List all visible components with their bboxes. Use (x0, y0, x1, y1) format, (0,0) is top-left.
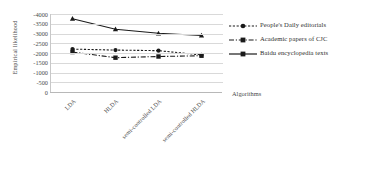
y-tick-label: -4000 (22, 11, 48, 18)
data-point-marker (113, 48, 117, 52)
y-tick-label: -1500 (22, 59, 48, 66)
y-tick-label: -1000 (22, 69, 48, 76)
legend-label: Baidu encyclopedia texts (258, 49, 328, 56)
y-tick-label: -500 (22, 79, 48, 86)
legend-label: People's Daily editorials (258, 21, 326, 28)
legend-key-triangle-icon (228, 46, 258, 58)
plot-area (50, 14, 222, 92)
legend-item[interactable]: Baidu encyclopedia texts (228, 45, 374, 59)
gridline (51, 14, 223, 15)
gridline (51, 34, 223, 35)
x-tick-label: semi-controlled HLDA (161, 98, 206, 143)
legend-item[interactable]: Academic papers of CJC (228, 31, 374, 45)
series-2 (70, 50, 203, 60)
x-tick-label: semi-controlled LDA (121, 98, 163, 140)
data-point-marker (70, 16, 75, 21)
gridline (51, 43, 223, 44)
legend-item[interactable]: People's Daily editorials (228, 17, 374, 31)
x-tick-label: HLDA (103, 98, 119, 114)
gridline (51, 53, 223, 54)
y-tick-label: -2000 (22, 50, 48, 57)
data-point-marker (199, 54, 203, 58)
x-tick-label: LDA (64, 98, 77, 111)
data-point-marker (156, 54, 160, 58)
y-tick-label: -3500 (22, 20, 48, 27)
x-axis-title: Algorithms (232, 90, 261, 97)
y-tick-label: -3000 (22, 30, 48, 37)
y-tick-label: -2500 (22, 40, 48, 47)
y-axis-tick-labels: -4000-3500-3000-2500-2000-1500-1000-5000 (22, 10, 48, 96)
y-axis-title: Empirical likelihood (11, 0, 18, 98)
legend-key-square-icon (228, 32, 258, 44)
y-tick-label: 0 (22, 89, 48, 96)
x-axis-tick-labels: LDAHLDAsemi-controlled LDAsemi-controlle… (50, 94, 222, 154)
gridline (51, 24, 223, 25)
chart-legend: People's Daily editorialsAcademic papers… (228, 17, 374, 59)
gridline (51, 82, 223, 83)
chart-figure: Empirical likelihood -4000-3500-3000-250… (0, 0, 376, 179)
gridline (51, 63, 223, 64)
gridline (51, 73, 223, 74)
x-axis-line (50, 92, 222, 93)
legend-label: Academic papers of CJC (258, 35, 328, 42)
legend-key-circle-icon (228, 18, 258, 30)
data-point-marker (113, 55, 117, 59)
